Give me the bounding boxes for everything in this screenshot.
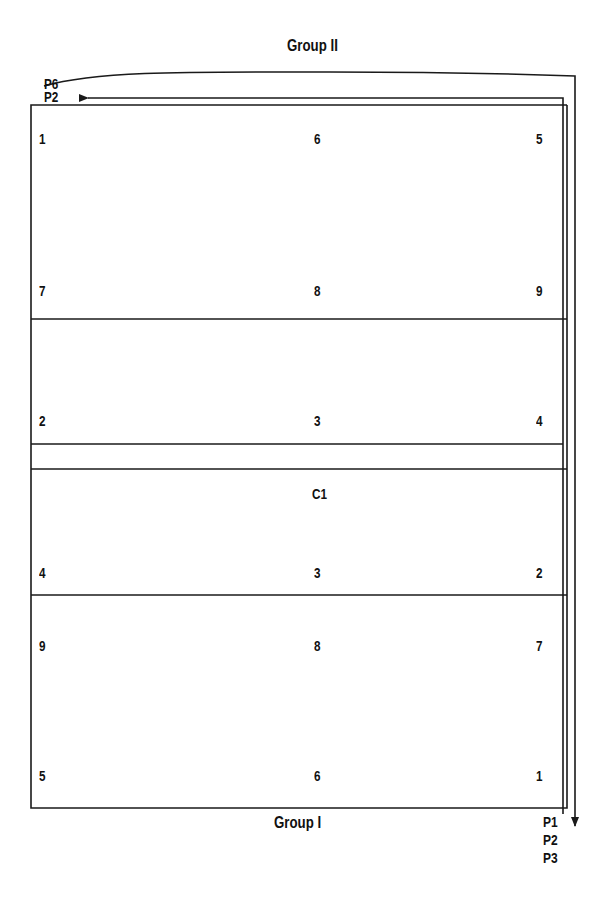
cell-label: 9 <box>39 638 46 654</box>
cell-label: 2 <box>536 565 543 581</box>
cell-label: 8 <box>314 283 321 299</box>
cell-label: 6 <box>314 768 321 784</box>
c1-label: C1 <box>312 486 327 502</box>
cell-label: 1 <box>39 131 46 147</box>
p1-label: P1 <box>543 813 558 831</box>
cell-label: 5 <box>536 131 543 147</box>
cell-label: 9 <box>536 283 543 299</box>
p6-curve-line <box>44 72 575 826</box>
p2-return-line <box>88 98 563 814</box>
p3-label: P3 <box>543 849 558 867</box>
cell-label: 4 <box>536 413 543 429</box>
cell-label: 1 <box>536 768 543 784</box>
p2-top-label: P2 <box>44 89 58 105</box>
cell-label: 5 <box>39 768 46 784</box>
cell-label: 8 <box>314 638 321 654</box>
group-ii-title: Group II <box>287 37 338 55</box>
p2-bottom-label: P2 <box>543 831 558 849</box>
diagram-lines <box>0 0 605 903</box>
box-outline <box>31 105 567 808</box>
group-i-title: Group I <box>274 814 321 832</box>
cell-label: 4 <box>39 565 46 581</box>
cell-label: 7 <box>39 283 46 299</box>
cell-label: 6 <box>314 131 321 147</box>
cell-label: 7 <box>536 638 543 654</box>
bottom-path-labels: P1 P2 P3 <box>543 813 558 867</box>
cell-label: 3 <box>314 565 321 581</box>
cell-label: 3 <box>314 413 321 429</box>
cell-label: 2 <box>39 413 46 429</box>
